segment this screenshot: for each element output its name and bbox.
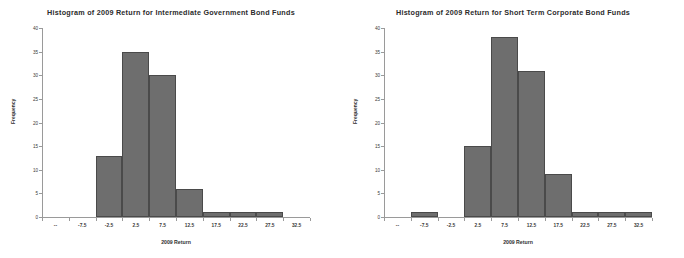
y-axis-tick-label: 0 — [377, 215, 380, 220]
y-axis-tick — [381, 123, 384, 124]
y-axis-tick — [381, 146, 384, 147]
figure-canvas: Histogram of 2009 Return for Intermediat… — [0, 0, 684, 258]
x-axis-tick — [310, 218, 311, 221]
x-axis-tick — [96, 218, 97, 221]
y-axis-line — [42, 28, 43, 218]
x-axis-tick — [625, 218, 626, 221]
histogram-bar — [545, 174, 572, 217]
x-axis-tick — [598, 218, 599, 221]
x-axis-tick — [203, 218, 204, 221]
y-axis-tick — [381, 170, 384, 171]
histogram-bar — [625, 212, 652, 217]
x-axis-tick — [122, 218, 123, 221]
x-axis-tick-label: 7.5 — [501, 223, 508, 228]
histogram-bar — [411, 212, 438, 217]
y-axis-tick — [39, 99, 42, 100]
y-axis-tick-label: 5 — [377, 191, 380, 196]
x-axis-tick-label: 12.5 — [185, 223, 194, 228]
y-axis-tick — [39, 170, 42, 171]
y-axis-tick-label: 10 — [33, 167, 38, 172]
y-axis-tick-label: 40 — [375, 26, 380, 31]
x-axis-tick-label: 22.5 — [238, 223, 247, 228]
x-axis-title: 2009 Return — [42, 239, 310, 245]
chart-panel-intermediate-government: Histogram of 2009 Return for Intermediat… — [0, 0, 342, 258]
y-axis-tick-label: 15 — [33, 144, 38, 149]
x-axis-tick — [652, 218, 653, 221]
histogram-bar — [203, 212, 230, 217]
x-axis-tick-label: 7.5 — [159, 223, 166, 228]
chart-title: Histogram of 2009 Return for Short Term … — [342, 8, 684, 17]
histogram-bar — [176, 189, 203, 217]
y-axis-tick — [381, 193, 384, 194]
y-axis-tick — [39, 75, 42, 76]
y-axis-tick-label: 35 — [33, 49, 38, 54]
x-axis-tick — [438, 218, 439, 221]
chart-title: Histogram of 2009 Return for Intermediat… — [0, 8, 342, 17]
x-axis-tick-label: -7.5 — [420, 223, 428, 228]
x-axis-tick-label: -2.5 — [447, 223, 455, 228]
x-axis-tick — [176, 218, 177, 221]
histogram-bar — [122, 52, 149, 217]
x-axis-tick-label: 22.5 — [580, 223, 589, 228]
plot-area: 0510152025303540---7.5-2.52.57.512.517.5… — [42, 28, 310, 218]
y-axis-tick-label: 30 — [375, 73, 380, 78]
histogram-bar — [518, 71, 545, 217]
x-axis-tick-label: -7.5 — [78, 223, 86, 228]
x-axis-tick — [42, 218, 43, 221]
histogram-bar — [149, 75, 176, 217]
x-axis-tick-label: 12.5 — [527, 223, 536, 228]
y-axis-tick-label: 0 — [35, 215, 38, 220]
x-axis-tick-label: 17.5 — [554, 223, 563, 228]
y-axis-tick — [381, 99, 384, 100]
plot-area: 0510152025303540---7.5-2.52.57.512.517.5… — [384, 28, 652, 218]
y-axis-title: Frequency — [352, 99, 358, 124]
histogram-bar — [256, 212, 283, 217]
y-axis-tick-label: 20 — [33, 120, 38, 125]
x-axis-tick — [411, 218, 412, 221]
x-axis-tick-label: -2.5 — [105, 223, 113, 228]
histogram-bar — [230, 212, 257, 217]
histogram-bar — [491, 37, 518, 217]
y-axis-tick — [381, 52, 384, 53]
y-axis-tick-label: 10 — [375, 167, 380, 172]
x-axis-tick-label: 32.5 — [292, 223, 301, 228]
x-axis-tick — [69, 218, 70, 221]
y-axis-tick-label: 30 — [33, 73, 38, 78]
x-axis-tick-label: 2.5 — [132, 223, 139, 228]
y-axis-tick-label: 25 — [375, 96, 380, 101]
histogram-bar — [96, 156, 123, 217]
x-axis-tick-label: -- — [54, 223, 57, 228]
x-axis-title: 2009 Return — [384, 239, 652, 245]
y-axis-tick-label: 5 — [35, 191, 38, 196]
x-axis-tick-label: 32.5 — [634, 223, 643, 228]
y-axis-title: Frequency — [10, 99, 16, 124]
histogram-bar — [598, 212, 625, 217]
histogram-bar — [464, 146, 491, 217]
x-axis-tick — [256, 218, 257, 221]
y-axis-tick-label: 15 — [375, 144, 380, 149]
chart-panel-short-term-corporate: Histogram of 2009 Return for Short Term … — [342, 0, 684, 258]
x-axis-tick-label: 17.5 — [212, 223, 221, 228]
x-axis-tick — [518, 218, 519, 221]
y-axis-tick — [381, 75, 384, 76]
y-axis-tick-label: 40 — [33, 26, 38, 31]
y-axis-tick — [39, 28, 42, 29]
y-axis-line — [384, 28, 385, 218]
y-axis-tick-label: 25 — [33, 96, 38, 101]
x-axis-tick-label: -- — [396, 223, 399, 228]
x-axis-tick — [230, 218, 231, 221]
x-axis-tick — [491, 218, 492, 221]
y-axis-tick — [39, 146, 42, 147]
x-axis-tick-label: 27.5 — [607, 223, 616, 228]
y-axis-tick — [39, 52, 42, 53]
x-axis-tick — [464, 218, 465, 221]
x-axis-tick-label: 27.5 — [265, 223, 274, 228]
histogram-bar — [572, 212, 599, 217]
y-axis-tick — [381, 28, 384, 29]
x-axis-tick — [384, 218, 385, 221]
y-axis-tick-label: 35 — [375, 49, 380, 54]
x-axis-tick — [283, 218, 284, 221]
y-axis-tick — [39, 193, 42, 194]
y-axis-tick-label: 20 — [375, 120, 380, 125]
x-axis-tick-label: 2.5 — [474, 223, 481, 228]
